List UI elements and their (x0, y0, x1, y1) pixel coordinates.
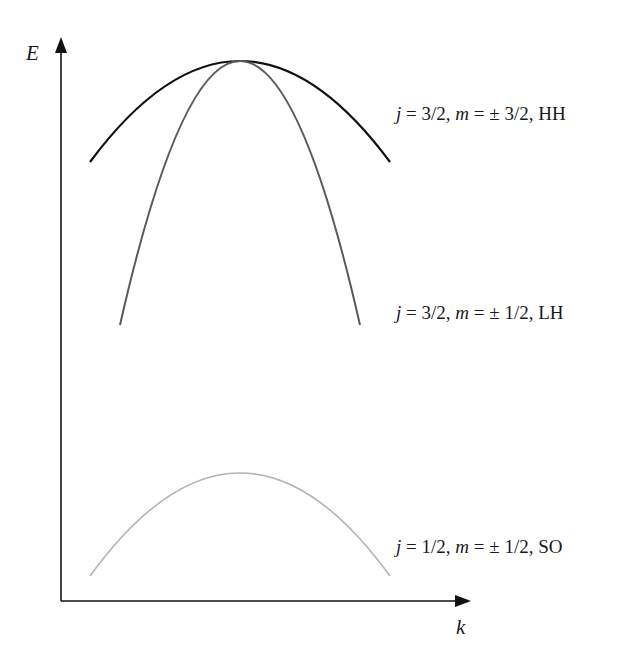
hh-m-symbol: m (455, 103, 469, 124)
lh-band-curve (120, 61, 360, 325)
hh-band-label: j = 3/2, m = ± 3/2, HH (396, 104, 566, 123)
band-diagram (0, 0, 619, 662)
x-axis-label: k (456, 617, 465, 638)
y-axis-arrow-icon (55, 37, 67, 53)
lh-m-value: = ± 1/2, LH (469, 302, 564, 323)
so-band-curve (90, 473, 390, 576)
lh-m-symbol: m (455, 302, 469, 323)
lh-band-label: j = 3/2, m = ± 1/2, LH (396, 303, 564, 322)
hh-m-value: = ± 3/2, HH (469, 103, 566, 124)
so-m-value: = ± 1/2, SO (469, 536, 562, 557)
x-axis-arrow-icon (455, 595, 471, 607)
so-j-value: = 1/2, (401, 536, 455, 557)
lh-j-value: = 3/2, (401, 302, 455, 323)
so-m-symbol: m (455, 536, 469, 557)
hh-band-curve (90, 61, 390, 162)
hh-j-value: = 3/2, (401, 103, 455, 124)
so-band-label: j = 1/2, m = ± 1/2, SO (396, 537, 562, 556)
y-axis-label: E (26, 43, 39, 64)
